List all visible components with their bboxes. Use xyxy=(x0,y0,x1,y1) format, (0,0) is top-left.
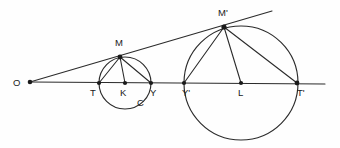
segment-mprime-to-tprime xyxy=(224,27,297,83)
label-l: L xyxy=(238,88,243,98)
geometry-canvas xyxy=(0,0,340,148)
point-y xyxy=(149,81,153,85)
point-m xyxy=(118,55,123,60)
point-k xyxy=(123,81,127,85)
label-t: T xyxy=(90,88,96,98)
segment-mprime-to-l xyxy=(224,27,241,83)
label-k: K xyxy=(120,88,126,98)
label-mprime: M' xyxy=(218,8,228,18)
point-yprime xyxy=(182,81,186,85)
point-o xyxy=(28,80,33,85)
label-yprime: Y' xyxy=(182,88,190,98)
common-tangent-ray xyxy=(30,11,272,82)
label-c: C xyxy=(137,98,144,108)
point-mprime xyxy=(221,24,226,29)
label-o: O xyxy=(13,78,20,88)
point-t xyxy=(97,81,101,85)
baseline-through-centers xyxy=(30,82,325,84)
geometry-diagram: O M T K Y C M' Y' L T' xyxy=(0,0,340,148)
label-y: Y xyxy=(150,88,156,98)
point-tprime xyxy=(295,81,300,86)
point-l xyxy=(239,81,243,85)
label-m: M xyxy=(115,38,123,48)
label-tprime: T' xyxy=(297,88,305,98)
